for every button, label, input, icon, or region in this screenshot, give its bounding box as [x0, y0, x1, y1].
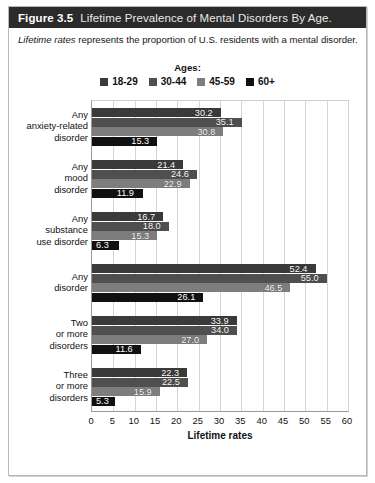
x-tick-label: 5 [110, 415, 115, 426]
bar-group: 16.718.015.36.3 [92, 212, 348, 250]
bar-value-label: 5.3 [96, 396, 109, 406]
category-label-line: Three [9, 369, 88, 380]
category-label-line: Two [9, 317, 88, 328]
x-tick-label: 60 [342, 415, 352, 426]
plot-wrapper: Anyanxiety-relateddisorderAnymooddisorde… [9, 100, 366, 420]
legend-title: Ages: [9, 62, 366, 73]
category-label-line: disorders [9, 392, 88, 403]
gridline [284, 101, 285, 411]
bar-row: 30.2 [92, 108, 348, 117]
category-label: Anydisorder [9, 271, 88, 294]
bar-group: 22.322.515.95.3 [92, 368, 348, 406]
bar-value-label: 26.1 [177, 292, 195, 302]
category-label-line: disorder [9, 282, 88, 293]
legend-entry: 45-59 [197, 76, 235, 87]
bar-value-label: 11.9 [117, 188, 134, 198]
bar[interactable] [92, 283, 290, 292]
bar-row: 30.8 [92, 127, 348, 136]
figure-container: Figure 3.5 Lifetime Prevalence of Mental… [8, 6, 367, 476]
bar-row: 22.9 [92, 179, 348, 188]
category-label-line: substance [9, 224, 88, 235]
legend-label: 60+ [258, 76, 275, 87]
category-label: Anysubstanceuse disorder [9, 213, 88, 247]
category-label-line: disorder [9, 132, 88, 143]
bar-row: 46.5 [92, 283, 348, 292]
bar-value-label: 22.3 [161, 368, 179, 378]
bar-row: 52.4 [92, 264, 348, 273]
legend-swatch-icon [149, 78, 157, 86]
category-label-line: use disorder [9, 236, 88, 247]
plot-area: 30.235.130.815.321.424.622.911.916.718.0… [91, 100, 349, 412]
x-tick-label: 0 [88, 415, 93, 426]
gridline [263, 101, 264, 411]
legend-entry: 60+ [246, 76, 275, 87]
category-axis: Anyanxiety-relateddisorderAnymooddisorde… [9, 100, 91, 412]
bar-value-label: 15.3 [131, 231, 149, 241]
bar-row: 15.3 [92, 231, 348, 240]
bar[interactable] [92, 264, 316, 273]
legend-label: 18-29 [112, 76, 138, 87]
category-label-line: Any [9, 161, 88, 172]
subtitle-italic-term: Lifetime rates [18, 34, 76, 45]
bar-value-label: 16.7 [137, 212, 155, 222]
bar-row: 11.9 [92, 189, 348, 198]
bar-value-label: 22.5 [162, 377, 180, 387]
x-tick-label: 40 [256, 415, 266, 426]
legend-entry: 18-29 [100, 76, 138, 87]
bar-group: 21.424.622.911.9 [92, 160, 348, 198]
bar-row: 55.0 [92, 274, 348, 283]
gridline [327, 101, 328, 411]
bar-value-label: 18.0 [143, 221, 161, 231]
bar-row: 15.3 [92, 137, 348, 146]
x-tick-label: 35 [235, 415, 245, 426]
chart-legend: Ages: 18-2930-4445-5960+ [9, 62, 366, 87]
legend-items: 18-2930-4445-5960+ [9, 76, 366, 87]
bar-value-label: 15.3 [131, 136, 149, 146]
bar-value-label: 52.4 [290, 264, 308, 274]
x-tick-label: 10 [128, 415, 138, 426]
bar-row: 5.3 [92, 397, 348, 406]
category-label-line: Any [9, 109, 88, 120]
gridline [199, 101, 200, 411]
bar-row: 18.0 [92, 222, 348, 231]
bar-value-label: 30.2 [195, 108, 213, 118]
bar-row: 22.5 [92, 378, 348, 387]
bar-row: 24.6 [92, 170, 348, 179]
bar-row: 27.0 [92, 335, 348, 344]
gridline [135, 101, 136, 411]
bar-value-label: 6.3 [96, 240, 109, 250]
bar[interactable] [92, 274, 327, 283]
bar-value-label: 33.9 [211, 316, 229, 326]
bar-value-label: 24.6 [171, 169, 189, 179]
bar-group: 33.934.027.011.6 [92, 316, 348, 354]
bar-row: 15.9 [92, 387, 348, 396]
x-tick-label: 50 [299, 415, 309, 426]
category-label-line: or more [9, 328, 88, 339]
category-label-line: disorders [9, 340, 88, 351]
bar-value-label: 27.0 [181, 335, 199, 345]
bar-row: 34.0 [92, 326, 348, 335]
gridline [220, 101, 221, 411]
bar-row: 6.3 [92, 241, 348, 250]
category-label-line: Any [9, 213, 88, 224]
x-tick-label: 55 [320, 415, 330, 426]
category-label-line: mood [9, 172, 88, 183]
bar-value-label: 34.0 [211, 325, 229, 335]
bar-row: 11.6 [92, 345, 348, 354]
figure-number: Figure 3.5 [18, 12, 73, 24]
bar-value-label: 21.4 [157, 160, 175, 170]
bar-group: 52.455.046.526.1 [92, 264, 348, 302]
legend-swatch-icon [197, 78, 205, 86]
bar-row: 33.9 [92, 316, 348, 325]
x-tick-label: 25 [192, 415, 202, 426]
x-axis-title: Lifetime rates [91, 430, 349, 441]
gridline [241, 101, 242, 411]
category-label: Anyanxiety-relateddisorder [9, 109, 88, 143]
legend-label: 45-59 [209, 76, 235, 87]
bar-value-label: 22.9 [164, 179, 182, 189]
bar-value-label: 11.6 [115, 344, 132, 354]
bar-row: 22.3 [92, 368, 348, 377]
x-axis-ticks: 051015202530354045505560 [91, 413, 349, 429]
legend-swatch-icon [246, 78, 254, 86]
category-label: Anymooddisorder [9, 161, 88, 195]
